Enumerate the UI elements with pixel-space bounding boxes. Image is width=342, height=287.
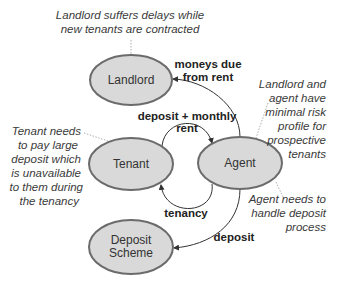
edge-label-deposit-rent-line1: deposit + monthly bbox=[138, 110, 237, 122]
note-agent-risk-line: prospective bbox=[266, 134, 326, 146]
edge-label-deposit-rent-line2: rent bbox=[176, 122, 198, 134]
note-tenant-line: is unavailable bbox=[11, 167, 81, 179]
edge-agent-to-tenant bbox=[161, 184, 212, 209]
note-landlord-line: Landlord suffers delays while bbox=[56, 9, 204, 21]
edge-label-moneys-due-line2: from rent bbox=[183, 71, 234, 83]
node-deposit-scheme-label-line1: Deposit bbox=[111, 233, 152, 247]
edge-label-deposit: deposit bbox=[214, 231, 255, 243]
node-tenant: Tenant bbox=[89, 138, 173, 190]
flow-diagram: Landlord Tenant Agent Deposit Scheme mon… bbox=[0, 0, 342, 287]
note-agent-deposit-line: handle deposit bbox=[251, 207, 327, 219]
note-agent-deposit-line: Agent needs to bbox=[248, 193, 327, 205]
node-landlord-label: Landlord bbox=[108, 73, 155, 87]
tenant-note-leader bbox=[84, 133, 108, 141]
edge-label-moneys-due-line1: moneys due bbox=[174, 58, 241, 70]
node-deposit-scheme-label-line2: Scheme bbox=[109, 246, 153, 260]
note-agent-risk-line: profile for bbox=[277, 120, 327, 132]
note-agent-risk-line: Landlord and bbox=[259, 78, 327, 90]
note-agent-deposit: Agent needs to handle deposit process bbox=[248, 193, 327, 233]
node-agent-label: Agent bbox=[224, 156, 256, 170]
note-agent-risk-line: agent have bbox=[269, 92, 326, 104]
note-landlord-line: new tenants are contracted bbox=[61, 23, 200, 35]
note-tenant-line: deposit which bbox=[11, 153, 81, 165]
note-tenant-line: to pay large bbox=[18, 139, 78, 151]
node-landlord: Landlord bbox=[90, 55, 172, 105]
note-tenant-line: to them during bbox=[9, 181, 83, 193]
note-tenant-line: Tenant needs bbox=[12, 125, 82, 137]
note-agent-risk-line: tenants bbox=[288, 148, 326, 160]
node-tenant-label: Tenant bbox=[113, 157, 150, 171]
edge-label-tenancy: tenancy bbox=[164, 207, 208, 219]
note-tenant-line: the tenancy bbox=[20, 195, 81, 207]
note-agent-risk-line: minimal risk bbox=[265, 106, 327, 118]
node-deposit-scheme: Deposit Scheme bbox=[89, 220, 173, 274]
note-landlord: Landlord suffers delays while new tenant… bbox=[56, 9, 204, 35]
note-agent-deposit-line: process bbox=[285, 221, 327, 233]
note-tenant: Tenant needs to pay large deposit which … bbox=[9, 125, 83, 207]
